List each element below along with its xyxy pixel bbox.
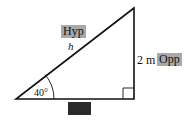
hypotenuse-symbol: h <box>68 41 74 52</box>
opposite-tag: Opp <box>157 53 182 66</box>
hypotenuse-tag: Hyp <box>61 25 86 38</box>
right-angle-marker <box>123 88 134 99</box>
adjacent-tag: Adj <box>68 102 91 115</box>
triangle <box>16 8 134 99</box>
opposite-value: 2 m <box>137 55 155 66</box>
angle-label: 40° <box>34 87 48 98</box>
